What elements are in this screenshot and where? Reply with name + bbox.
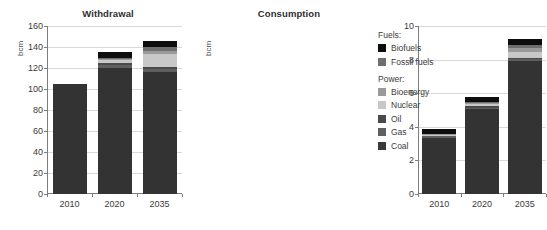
stacked-bar-2010[interactable] xyxy=(53,84,87,194)
legend-item-coal[interactable]: Coal xyxy=(378,141,452,151)
bar-segment-nuclear[interactable] xyxy=(143,54,177,67)
legend-item-nuclear[interactable]: Nuclear xyxy=(378,100,452,110)
y-axis-tick-label: 80 xyxy=(33,105,43,115)
chart-legend: Fuels:BiofuelsFossil fuelsPower:Bioenerg… xyxy=(378,30,452,158)
bar-slot: 2035 xyxy=(508,26,542,194)
legend-item-bioenergy[interactable]: Bioenergy xyxy=(378,87,452,97)
legend-group: Fuels:BiofuelsFossil fuels xyxy=(378,30,452,67)
legend-item-label: Gas xyxy=(391,127,407,137)
legend-item-biofuels[interactable]: Biofuels xyxy=(378,43,452,53)
legend-swatch-icon xyxy=(378,58,386,66)
y-axis-unit-consumption: bcm xyxy=(204,41,213,56)
legend-item-label: Biofuels xyxy=(391,43,421,53)
x-axis-tick-mark xyxy=(503,194,504,197)
stacked-bar-2035[interactable] xyxy=(143,41,177,194)
x-axis-tick-label: 2020 xyxy=(472,199,492,209)
x-axis-tick-mark xyxy=(137,194,138,197)
bar-segment-coal[interactable] xyxy=(53,84,87,194)
legend-swatch-icon xyxy=(378,44,386,52)
legend-swatch-icon xyxy=(378,115,386,123)
bar-segment-coal[interactable] xyxy=(465,109,499,194)
bar-slot: 2035 xyxy=(143,26,177,194)
x-axis-tick-mark xyxy=(418,194,419,197)
x-axis-tick-mark xyxy=(182,194,183,197)
legend-item-label: Nuclear xyxy=(391,100,420,110)
y-axis-tick-label: 60 xyxy=(33,126,43,136)
x-axis-tick-mark xyxy=(92,194,93,197)
legend-item-label: Fossil fuels xyxy=(391,57,434,67)
stacked-bar-2020[interactable] xyxy=(465,97,499,194)
legend-item-label: Coal xyxy=(391,141,408,151)
chart-title-withdrawal: Withdrawal xyxy=(0,8,196,19)
stacked-bar-2020[interactable] xyxy=(98,52,132,194)
x-axis-tick-label: 2035 xyxy=(515,199,535,209)
plot-area-withdrawal: 020406080100120140160201020202035 xyxy=(47,26,182,194)
legend-item-gas[interactable]: Gas xyxy=(378,127,452,137)
y-axis-tick-label: 20 xyxy=(33,168,43,178)
x-axis-tick-mark xyxy=(461,194,462,197)
stacked-bar-2035[interactable] xyxy=(508,39,542,194)
legend-group: Power:BioenergyNuclearOilGasCoal xyxy=(378,74,452,151)
y-axis-tick-label: 140 xyxy=(28,42,43,52)
y-axis-tick-label: 160 xyxy=(28,21,43,31)
legend-item-oil[interactable]: Oil xyxy=(378,114,452,124)
x-axis-tick-label: 2010 xyxy=(429,199,449,209)
legend-swatch-icon xyxy=(378,142,386,150)
x-axis-tick-label: 2010 xyxy=(59,199,79,209)
chart-title-consumption: Consumption xyxy=(196,8,372,19)
x-axis-tick-mark xyxy=(47,194,48,197)
bar-slot: 2020 xyxy=(98,26,132,194)
chart-panel-consumption: Consumption bcm 0246810201020202035 xyxy=(196,0,372,230)
legend-swatch-icon xyxy=(378,128,386,136)
x-axis-tick-label: 2020 xyxy=(104,199,124,209)
legend-group-title: Power: xyxy=(378,74,452,84)
bar-segment-coal[interactable] xyxy=(98,68,132,194)
y-axis-unit-withdrawal: bcm xyxy=(16,41,25,56)
y-axis-tick-label: 0 xyxy=(409,189,414,199)
legend-item-label: Oil xyxy=(391,114,401,124)
chart-panel-withdrawal: Withdrawal bcm 0204060801001201401602010… xyxy=(0,0,196,230)
bar-group-withdrawal: 201020202035 xyxy=(47,26,182,194)
bar-slot: 2010 xyxy=(53,26,87,194)
legend-swatch-icon xyxy=(378,88,386,96)
y-axis-tick-label: 40 xyxy=(33,147,43,157)
y-axis-tick-label: 120 xyxy=(28,63,43,73)
y-axis-tick-label: 100 xyxy=(28,84,43,94)
y-axis-tick-label: 0 xyxy=(38,189,43,199)
bar-segment-coal[interactable] xyxy=(143,72,177,194)
legend-item-fossil-fuels[interactable]: Fossil fuels xyxy=(378,57,452,67)
x-axis-tick-label: 2035 xyxy=(149,199,169,209)
bar-segment-coal[interactable] xyxy=(508,61,542,194)
legend-swatch-icon xyxy=(378,101,386,109)
legend-item-label: Bioenergy xyxy=(391,87,429,97)
bar-slot: 2020 xyxy=(465,26,499,194)
legend-group-title: Fuels: xyxy=(378,30,452,40)
